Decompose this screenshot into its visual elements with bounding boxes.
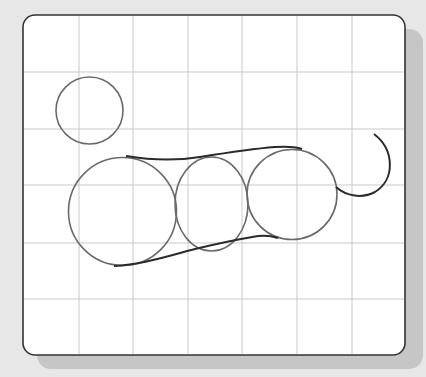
diagram-canvas — [0, 0, 426, 377]
drawing-surface — [0, 0, 426, 377]
